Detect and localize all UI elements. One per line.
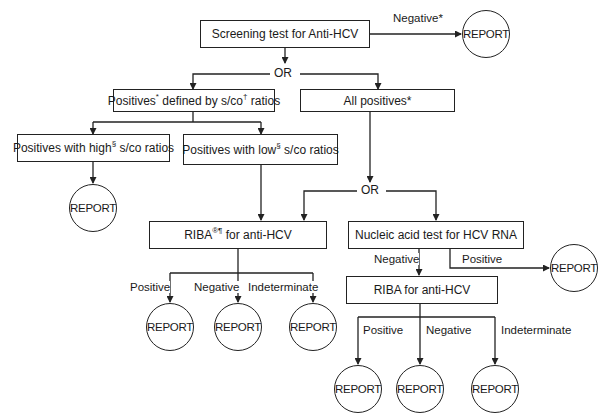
- report-label: REPORT: [551, 262, 597, 274]
- report-label: REPORT: [335, 383, 381, 395]
- report-riba1-positive-circle: REPORT: [146, 303, 194, 351]
- nat-label: Nucleic acid test for HCV RNA: [355, 228, 517, 242]
- high-sco-box: Positives with high§ s/co ratios: [17, 134, 170, 162]
- footnote-mark: †: [243, 92, 247, 101]
- footnote-mark: §: [112, 139, 116, 148]
- screening-test-label: Screening test for Anti-HCV: [212, 27, 359, 41]
- nat-positive-label: Positive: [462, 253, 502, 265]
- text-part: for anti-HCV: [222, 228, 291, 242]
- text-part: Positives: [108, 94, 156, 108]
- all-positives-box: All positives*: [300, 89, 455, 112]
- report-label: REPORT: [70, 202, 116, 214]
- text-part: defined by s/co: [159, 94, 243, 108]
- text-part: RIBA: [184, 228, 212, 242]
- text-part: s/co ratios: [281, 143, 339, 157]
- report-label: REPORT: [472, 383, 518, 395]
- report-negative-circle: REPORT: [462, 10, 510, 58]
- riba1-negative-label: Negative: [194, 281, 239, 293]
- low-sco-label: Positives with low§ s/co ratios: [182, 143, 339, 157]
- footnote-mark: ®¶: [212, 226, 222, 235]
- riba2-label: RIBA for anti-HCV: [374, 283, 471, 297]
- positives-sco-label: Positives* defined by s/co† ratios: [108, 94, 280, 108]
- report-label: REPORT: [147, 321, 193, 333]
- or-mid-label: OR: [357, 183, 383, 197]
- positives-sco-box: Positives* defined by s/co† ratios: [113, 89, 275, 112]
- report-riba1-indeterminate-circle: REPORT: [289, 303, 337, 351]
- screening-test-box: Screening test for Anti-HCV: [200, 20, 370, 48]
- report-nat-positive-circle: REPORT: [550, 244, 598, 292]
- riba1-label: RIBA®¶ for anti-HCV: [184, 228, 292, 242]
- all-positives-label: All positives*: [343, 94, 411, 108]
- report-label: REPORT: [215, 321, 261, 333]
- text-part: Positives with low: [182, 143, 276, 157]
- riba2-box: RIBA for anti-HCV: [346, 276, 498, 304]
- low-sco-box: Positives with low§ s/co ratios: [183, 134, 338, 165]
- nat-box: Nucleic acid test for HCV RNA: [348, 221, 524, 249]
- report-high-circle: REPORT: [69, 184, 117, 232]
- high-sco-label: Positives with high§ s/co ratios: [13, 141, 174, 155]
- negative-edge-label: Negative*: [393, 12, 443, 24]
- report-riba2-indeterminate-circle: REPORT: [471, 365, 519, 413]
- report-riba1-negative-circle: REPORT: [214, 303, 262, 351]
- riba1-indeterminate-label: Indeterminate: [248, 281, 318, 293]
- riba1-box: RIBA®¶ for anti-HCV: [149, 221, 327, 249]
- or-top-label: OR: [270, 66, 296, 80]
- report-label: REPORT: [463, 28, 509, 40]
- report-riba2-positive-circle: REPORT: [334, 365, 382, 413]
- text-part: ratios: [248, 94, 281, 108]
- text-part: Positives with high: [13, 141, 112, 155]
- riba2-negative-label: Negative: [426, 324, 471, 336]
- report-label: REPORT: [290, 321, 336, 333]
- riba2-positive-label: Positive: [363, 324, 403, 336]
- footnote-mark: *: [156, 92, 159, 101]
- nat-negative-label: Negative: [374, 253, 419, 265]
- report-riba2-negative-circle: REPORT: [396, 365, 444, 413]
- riba1-positive-label: Positive: [130, 281, 170, 293]
- text-part: s/co ratios: [116, 141, 174, 155]
- report-label: REPORT: [397, 383, 443, 395]
- riba2-indeterminate-label: Indeterminate: [501, 324, 571, 336]
- footnote-mark: §: [276, 141, 280, 150]
